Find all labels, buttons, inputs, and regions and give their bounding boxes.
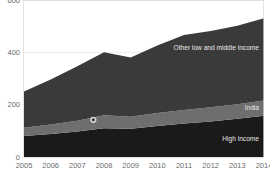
chart-canvas: Other low and middle incomeIndiaHigh inc…: [0, 0, 270, 172]
x-axis-tick-label: 2006: [42, 161, 59, 170]
y-axis-tick-label: 200: [7, 100, 20, 109]
y-axis-tick-label: 400: [7, 48, 20, 57]
annotation-markers-group: [90, 117, 96, 123]
x-axis-tick-label: 2005: [16, 161, 33, 170]
series-label-high-income: High income: [222, 135, 259, 143]
data-point-marker: [92, 118, 95, 121]
x-axis-tick-label: 2010: [149, 161, 166, 170]
x-axis-tick-label: 2009: [122, 161, 139, 170]
x-axis-tick-label: 2013: [229, 161, 246, 170]
y-axis-tick-label: 600: [7, 0, 20, 5]
series-label-other: Other low and middle income: [174, 44, 260, 51]
x-axis-tick-label: 2011: [176, 161, 192, 170]
x-axis-tick-label: 2007: [69, 161, 86, 170]
stacked-area-chart: Other low and middle incomeIndiaHigh inc…: [0, 0, 270, 172]
series-label-india: India: [245, 104, 260, 111]
x-axis-tick-label: 2012: [202, 161, 219, 170]
x-axis-tick-label: 2014: [256, 161, 270, 170]
x-axis-tick-label: 2008: [96, 161, 113, 170]
